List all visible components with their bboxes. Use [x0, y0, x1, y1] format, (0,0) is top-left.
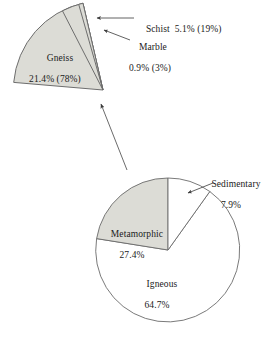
igneous-percent: 64.7%	[124, 300, 190, 311]
pie-label-sedimentary: Sedimentary 7.9%	[193, 168, 269, 232]
gneiss-percent: 21.4% (78%)	[16, 74, 94, 85]
wedge-label-marble: Marble 0.9% (3%)	[129, 31, 171, 95]
sedimentary-percent: 7.9%	[193, 200, 269, 211]
marble-name: Marble	[139, 42, 167, 52]
wedge-label-gneiss: Gneiss 21.4% (78%)	[16, 42, 94, 106]
metamorphic-percent: 27.4%	[89, 250, 175, 261]
igneous-name: Igneous	[147, 279, 178, 289]
marble-leader-line	[104, 30, 130, 40]
explode-connector-arrow	[101, 104, 127, 170]
pie-chart-figure: Gneiss 21.4% (78%) Schist 5.1% (19%) Mar…	[0, 0, 275, 337]
sedimentary-name: Sedimentary	[211, 179, 260, 189]
pie-label-igneous: Igneous 64.7%	[124, 268, 190, 332]
metamorphic-name: Metamorphic	[111, 229, 163, 239]
marble-percent: 0.9% (3%)	[129, 63, 171, 74]
gneiss-name: Gneiss	[47, 53, 73, 63]
